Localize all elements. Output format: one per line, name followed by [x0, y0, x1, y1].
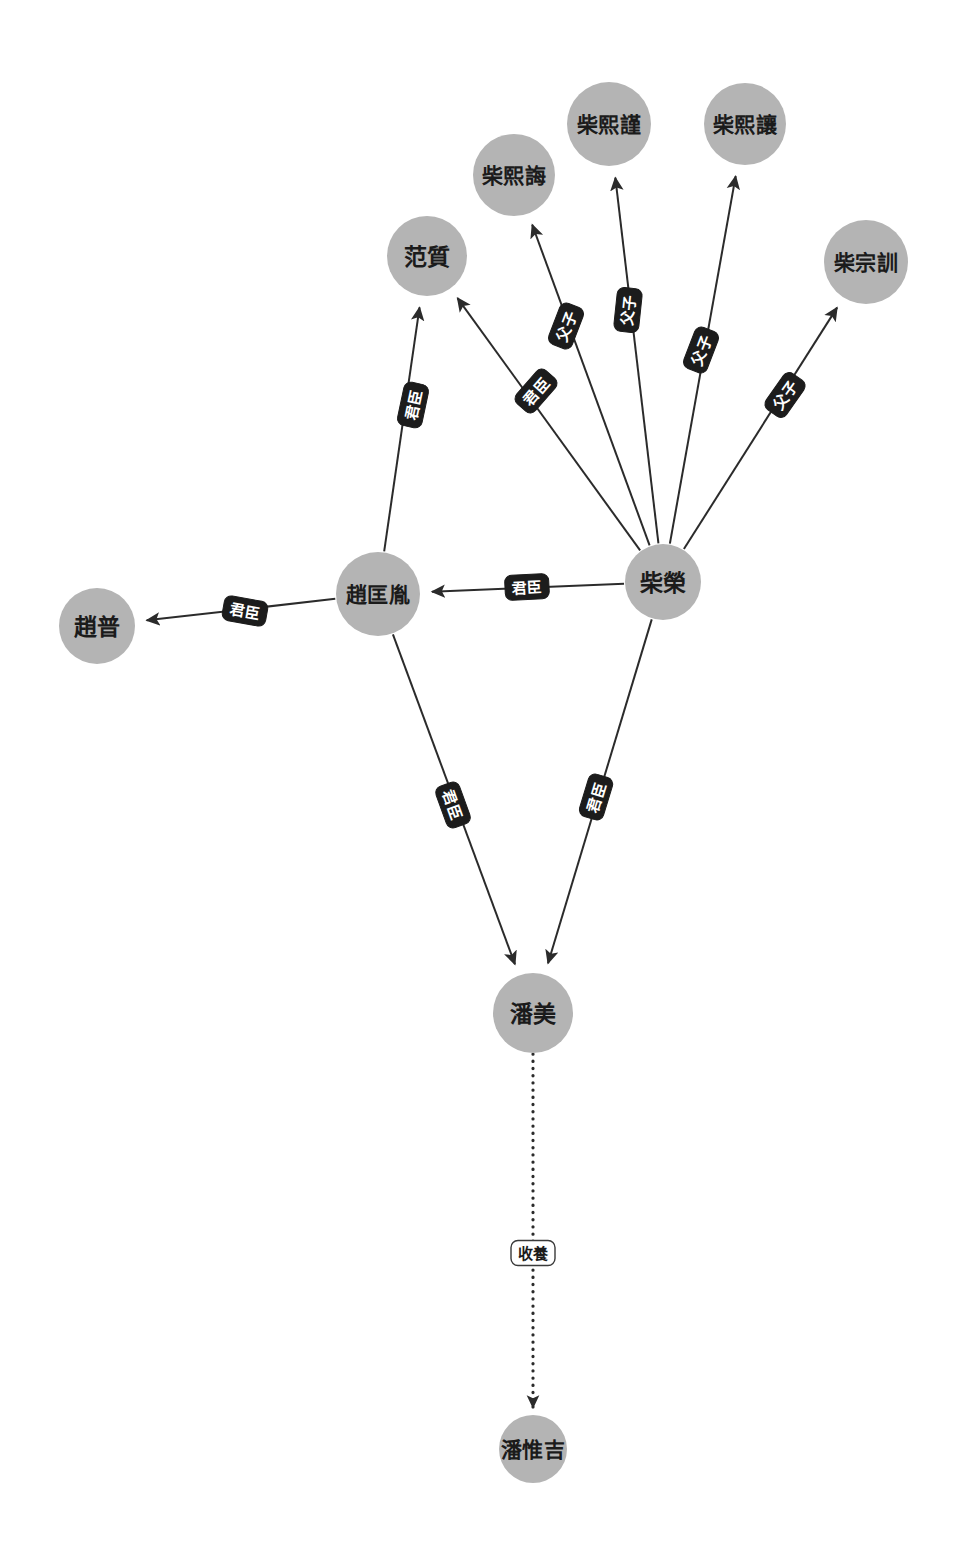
- graph-node[interactable]: 柴宗訓: [824, 220, 908, 304]
- node-label: 柴榮: [639, 570, 687, 596]
- node-label: 范質: [404, 244, 451, 270]
- node-label: 柴宗訓: [833, 251, 899, 275]
- edge-label[interactable]: 君臣: [512, 366, 560, 416]
- edge-label[interactable]: 君臣: [504, 573, 549, 600]
- node-label: 趙普: [74, 614, 121, 640]
- edge-label[interactable]: 君臣: [396, 381, 430, 429]
- edge-label[interactable]: 父子: [762, 370, 808, 420]
- node-label: 趙匡胤: [346, 583, 411, 607]
- relationship-graph: 柴熙謹柴熙讓柴熙誨柴宗訓范質趙匡胤柴榮趙普潘美潘惟吉 君臣君臣父子父子父子父子君…: [0, 0, 970, 1560]
- graph-node[interactable]: 趙普: [59, 588, 135, 664]
- node-layer: 柴熙謹柴熙讓柴熙誨柴宗訓范質趙匡胤柴榮趙普潘美潘惟吉: [59, 82, 908, 1483]
- graph-edge[interactable]: [615, 178, 658, 544]
- graph-node[interactable]: 柴熙謹: [567, 82, 651, 166]
- node-label: 柴熙謹: [576, 113, 642, 137]
- graph-node[interactable]: 柴熙誨: [473, 134, 555, 216]
- edge-label[interactable]: 父子: [546, 301, 585, 351]
- node-label: 潘美: [510, 1001, 557, 1027]
- edge-label-layer: 君臣君臣父子父子父子父子君臣君臣君臣君臣收養: [221, 287, 808, 1266]
- edge-label[interactable]: 君臣: [434, 780, 473, 830]
- node-label: 潘惟吉: [501, 1438, 566, 1462]
- graph-node[interactable]: 潘美: [493, 973, 573, 1053]
- graph-node[interactable]: 趙匡胤: [336, 552, 420, 636]
- node-label: 柴熙讓: [712, 113, 778, 137]
- graph-canvas: 柴熙謹柴熙讓柴熙誨柴宗訓范質趙匡胤柴榮趙普潘美潘惟吉 君臣君臣父子父子父子父子君…: [0, 0, 970, 1560]
- graph-node[interactable]: 柴熙讓: [704, 83, 786, 165]
- edge-label[interactable]: 收養: [511, 1241, 555, 1266]
- edge-label[interactable]: 父子: [681, 325, 720, 375]
- edge-label[interactable]: 父子: [613, 287, 642, 333]
- edge-layer: [147, 176, 837, 1407]
- edge-label[interactable]: 君臣: [578, 772, 615, 821]
- node-label: 柴熙誨: [481, 164, 547, 188]
- graph-node[interactable]: 潘惟吉: [499, 1415, 567, 1483]
- edge-label-text: 父子: [618, 294, 639, 328]
- graph-node[interactable]: 柴榮: [625, 544, 701, 620]
- edge-label-text: 君臣: [511, 578, 543, 598]
- graph-edge[interactable]: [384, 307, 419, 551]
- graph-node[interactable]: 范質: [387, 216, 467, 296]
- edge-label[interactable]: 君臣: [221, 595, 269, 627]
- edge-label-text: 收養: [518, 1245, 550, 1263]
